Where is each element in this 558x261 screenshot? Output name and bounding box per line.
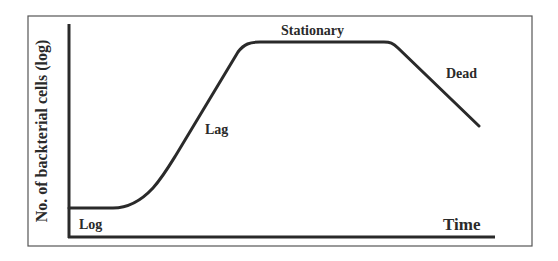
phase-label-stationary: Stationary (281, 23, 344, 38)
phase-label-dead: Dead (446, 66, 477, 81)
chart-frame (28, 16, 532, 246)
y-axis-label: No. of backterial cells (log) (33, 40, 51, 223)
growth-curve-chart: No. of backterial cells (log) Time Log L… (0, 0, 558, 261)
phase-label-log: Log (79, 217, 102, 232)
chart-svg: No. of backterial cells (log) Time Log L… (0, 0, 558, 261)
x-axis-label: Time (443, 215, 481, 234)
phase-label-lag: Lag (205, 122, 228, 137)
growth-curve-line (69, 42, 479, 208)
